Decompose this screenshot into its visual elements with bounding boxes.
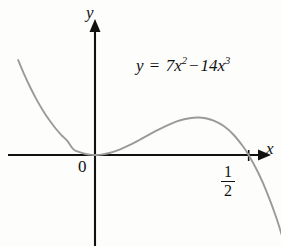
y-axis-label: y [86, 4, 94, 21]
fraction-numerator: 1 [221, 164, 235, 182]
function-graph-figure: y x 0 y = 7x2−14x3 1 2 [0, 0, 281, 246]
equation-variable-cubic: x [218, 56, 226, 75]
equation-operator: − [187, 56, 201, 75]
function-curve [18, 60, 281, 246]
equation-annotation: y = 7x2−14x3 [136, 57, 230, 74]
fraction-one-half: 1 2 [221, 164, 235, 199]
x-axis-label: x [266, 140, 274, 157]
equation-equals: = [148, 56, 162, 75]
equation-variable-quadratic: x [174, 56, 182, 75]
fraction-denominator: 2 [221, 182, 235, 199]
equation-coefficient-quadratic: 7 [166, 56, 175, 75]
plot-canvas [0, 0, 281, 246]
origin-label: 0 [78, 158, 87, 175]
equation-exponent-cubic: 3 [225, 55, 230, 66]
equation-lhs: y [136, 56, 144, 75]
x-tick-label-half: 1 2 [221, 164, 235, 199]
equation-coefficient-cubic: 14 [201, 56, 218, 75]
